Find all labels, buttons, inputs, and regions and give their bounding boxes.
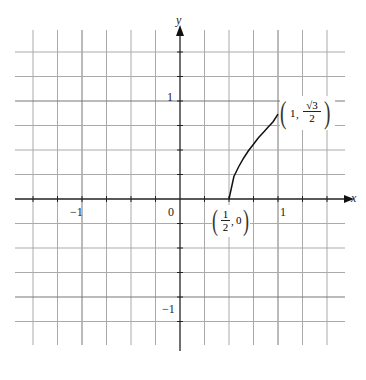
origin-label: 0 — [168, 206, 174, 218]
x-tick-label-1: 1 — [280, 206, 286, 218]
end-point-x: 1 — [290, 107, 296, 119]
y-tick-label-neg1: −1 — [162, 303, 175, 315]
end-point-num: √3 — [303, 99, 321, 112]
x-axis-label: x — [351, 192, 356, 204]
start-point-annotation: ( 1 2 , 0 ) — [212, 205, 250, 237]
x-tick-label-neg1: −1 — [70, 206, 83, 218]
y-tick-label-1: 1 — [167, 91, 173, 103]
end-point-den: 2 — [303, 112, 321, 125]
start-point-num: 1 — [221, 208, 230, 221]
y-axis-label: y — [176, 14, 181, 26]
start-point-den: 2 — [221, 221, 230, 233]
start-point-y: 0 — [236, 214, 242, 226]
end-point-annotation: ( 1 , √3 2 ) — [280, 96, 335, 130]
coordinate-grid — [0, 0, 366, 380]
